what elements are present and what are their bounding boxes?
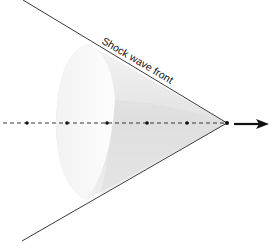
velocity-arrow-icon bbox=[234, 119, 269, 129]
source-position-dot bbox=[25, 121, 29, 125]
shock-wave-diagram: Shock wave front bbox=[0, 0, 280, 252]
source-position-dot bbox=[105, 121, 109, 125]
source-position-dot bbox=[185, 121, 189, 125]
source-position-dot bbox=[145, 121, 149, 125]
source-position-dot bbox=[65, 121, 69, 125]
source-position-dot bbox=[225, 121, 229, 125]
